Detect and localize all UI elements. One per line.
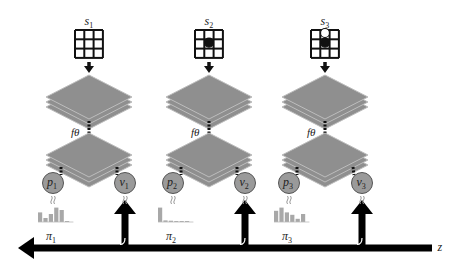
search-policy-label-index: 2 bbox=[172, 236, 176, 245]
policy-label-index: 2 bbox=[173, 182, 177, 191]
network-label: fθ bbox=[307, 127, 315, 138]
search-policy-label: π2 bbox=[166, 230, 176, 245]
state-label: s2 bbox=[205, 15, 214, 30]
wavy-line bbox=[171, 196, 173, 204]
search-policy-histogram bbox=[158, 208, 193, 222]
wavy-line bbox=[174, 196, 176, 204]
value-arrow-head-icon bbox=[114, 200, 136, 214]
value-label-index: 3 bbox=[362, 182, 366, 191]
histogram-bar bbox=[43, 218, 47, 222]
value-label: v1 bbox=[120, 176, 129, 191]
black-stone-icon bbox=[205, 38, 214, 47]
histogram-bar bbox=[285, 212, 289, 222]
network-layers-top bbox=[166, 75, 252, 129]
search-policy-label: π1 bbox=[46, 230, 56, 245]
approx-icon bbox=[287, 196, 292, 204]
network-label-text: fθ bbox=[71, 126, 79, 138]
policy-label: p3 bbox=[283, 176, 293, 191]
histogram-bar bbox=[60, 210, 64, 222]
go-board-icon bbox=[195, 30, 223, 58]
value-label: v2 bbox=[240, 176, 249, 191]
search-policy-histogram bbox=[38, 208, 73, 222]
search-policy-label: π3 bbox=[282, 230, 292, 245]
state-label-index: 2 bbox=[209, 21, 213, 30]
network-label-text: fθ bbox=[191, 126, 199, 138]
state-label: s3 bbox=[321, 15, 330, 30]
approx-icon bbox=[171, 196, 176, 204]
diagram-canvas bbox=[0, 0, 461, 264]
wavy-line bbox=[51, 196, 53, 204]
input-arrow-head-icon bbox=[204, 66, 214, 73]
value-arrow-head-icon bbox=[351, 200, 373, 214]
histogram-bar bbox=[301, 214, 305, 222]
input-arrow-head-icon bbox=[84, 66, 94, 73]
wavy-line bbox=[287, 196, 289, 204]
histogram-bar bbox=[38, 212, 42, 222]
histogram-bar bbox=[296, 219, 300, 222]
histogram-bar bbox=[54, 208, 58, 222]
histogram-bar bbox=[274, 211, 278, 222]
go-board-icon bbox=[75, 30, 103, 58]
policy-label: p2 bbox=[167, 176, 177, 191]
value-arrow-head-icon bbox=[234, 200, 256, 214]
wavy-line bbox=[54, 196, 56, 204]
wavy-line bbox=[290, 196, 292, 204]
black-stone-icon bbox=[321, 38, 330, 47]
network-label-text: fθ bbox=[307, 126, 315, 138]
value-label-index: 1 bbox=[125, 182, 129, 191]
state-label-index: 3 bbox=[325, 21, 329, 30]
policy-label-index: 1 bbox=[53, 182, 57, 191]
network-label: fθ bbox=[191, 127, 199, 138]
search-policy-label-index: 1 bbox=[52, 236, 56, 245]
value-label: v3 bbox=[357, 176, 366, 191]
outcome-label: z bbox=[438, 241, 443, 253]
state-label: s1 bbox=[85, 15, 94, 30]
histogram-bar bbox=[49, 214, 53, 222]
policy-label: p1 bbox=[47, 176, 57, 191]
z-arrow-head-icon bbox=[18, 237, 34, 259]
network-label: fθ bbox=[71, 127, 79, 138]
value-head-connector bbox=[353, 167, 354, 175]
policy-label-index: 3 bbox=[289, 182, 293, 191]
network-layers-top bbox=[46, 75, 132, 129]
network-layers-top bbox=[282, 75, 368, 129]
search-policy-histogram bbox=[274, 208, 309, 222]
approx-icon bbox=[51, 196, 56, 204]
outcome-label-text: z bbox=[438, 240, 443, 254]
value-label-index: 2 bbox=[245, 182, 249, 191]
histogram-bar bbox=[290, 215, 294, 222]
go-board-icon bbox=[311, 29, 339, 59]
state-label-index: 1 bbox=[89, 21, 93, 30]
search-policy-label-index: 3 bbox=[288, 236, 292, 245]
histogram-bar bbox=[158, 208, 162, 222]
histogram-bar bbox=[279, 208, 283, 222]
input-arrow-head-icon bbox=[320, 66, 330, 73]
